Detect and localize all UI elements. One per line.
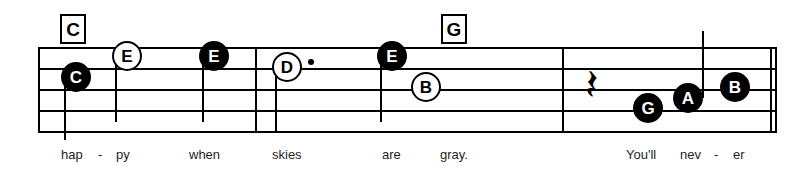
- staff-line-1: [38, 47, 777, 49]
- notehead-a-7: A: [673, 83, 703, 113]
- notehead-e-2: E: [199, 41, 229, 71]
- staff-line-4: [38, 110, 777, 112]
- lyric-syllable: nev: [680, 148, 701, 161]
- barline-2: [562, 47, 564, 133]
- lyric-syllable: skies: [272, 148, 302, 161]
- lyric-syllable: -: [98, 148, 102, 161]
- quarter-rest-0: 𝄽: [585, 63, 598, 107]
- lyric-syllable: er: [733, 148, 745, 161]
- barline-3: [770, 47, 772, 133]
- note-stem-a-7: [702, 31, 704, 98]
- barline-end: [775, 47, 777, 133]
- notehead-d-3: D: [272, 52, 302, 82]
- chord-symbol-g: G: [441, 14, 467, 44]
- lyric-syllable: gray.: [440, 148, 468, 161]
- lyric-syllable: hap: [61, 148, 83, 161]
- notehead-b-5: B: [411, 72, 441, 102]
- notehead-e-1: E: [112, 41, 142, 71]
- lyric-syllable: are: [382, 148, 401, 161]
- notehead-c-0: C: [61, 62, 91, 92]
- lyric-syllable: -: [714, 148, 718, 161]
- lyric-syllable: py: [116, 148, 130, 161]
- staff-line-2: [38, 68, 777, 70]
- chord-symbol-c: C: [60, 14, 86, 44]
- augmentation-dot-3: [308, 59, 314, 65]
- sheet-music-staff-system: CGCEEDEBGAB𝄽hap-pywhenskiesaregray.You'l…: [0, 0, 811, 172]
- staff-line-3: [38, 89, 777, 91]
- barline-1: [255, 47, 257, 133]
- notehead-g-6: G: [633, 93, 663, 123]
- lyric-syllable: when: [189, 148, 220, 161]
- staff-line-5: [38, 131, 777, 133]
- lyric-syllable: You'll: [626, 148, 656, 161]
- notehead-b-8: B: [720, 72, 750, 102]
- barline-start: [38, 47, 40, 133]
- notehead-e-4: E: [377, 41, 407, 71]
